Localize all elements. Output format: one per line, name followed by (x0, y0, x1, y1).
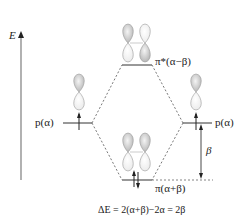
right-p-orbital (191, 74, 202, 110)
electron-p-left (77, 112, 81, 130)
axis-arrow-icon (18, 31, 24, 38)
pi-star-orbitals (123, 24, 151, 62)
label-p-right: p(α) (215, 117, 234, 128)
electron-p-right (194, 112, 198, 130)
mo-diagram-canvas (0, 0, 250, 224)
spin-up-icon (77, 112, 81, 118)
spin-down-icon (136, 183, 140, 189)
label-p-left: p(α) (35, 117, 54, 128)
axis-label-E: E (9, 30, 16, 41)
pi-bonding-orbitals (123, 133, 151, 171)
delta-e-equation: ΔE = 2(α+β)−2α = 2β (98, 205, 185, 215)
label-pi: π(α+β) (155, 183, 185, 194)
spin-up-icon (194, 112, 198, 118)
energy-axis (18, 31, 24, 180)
spin-up-icon (132, 170, 136, 176)
beta-gap-arrow (199, 124, 203, 179)
label-pi-star: π*(α−β) (155, 56, 191, 67)
label-beta: β (206, 145, 211, 156)
left-p-orbital (74, 74, 85, 110)
correlation-lines (92, 65, 183, 180)
